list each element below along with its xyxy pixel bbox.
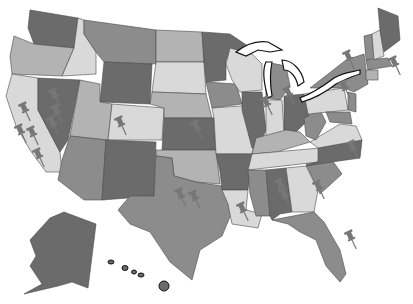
state-md	[326, 112, 352, 124]
state-co	[108, 104, 164, 140]
us-map	[0, 0, 413, 304]
state-ks	[162, 118, 216, 150]
state-nd	[156, 30, 204, 62]
state-pa	[304, 88, 348, 114]
state-ct	[366, 70, 378, 80]
hawaii-island	[132, 270, 137, 274]
states-layer	[6, 8, 400, 294]
hawaii-island	[122, 266, 128, 271]
hawaii-island	[159, 281, 169, 291]
state-wa	[28, 10, 78, 48]
lake-michigan	[264, 62, 272, 98]
hawaii-island	[138, 273, 144, 277]
us-map-svg	[0, 0, 413, 304]
state-wy	[100, 62, 152, 104]
pin-florida-pushpin-icon[interactable]	[344, 229, 361, 251]
hawaii-island	[108, 260, 114, 264]
state-nm	[102, 140, 156, 200]
state-nj	[348, 92, 356, 112]
hawaii	[108, 260, 169, 291]
state-ak	[24, 212, 96, 294]
state-ma	[366, 58, 392, 70]
state-fl	[272, 212, 346, 282]
state-az	[58, 136, 106, 200]
state-sd	[152, 62, 206, 94]
state-ar	[216, 154, 252, 190]
